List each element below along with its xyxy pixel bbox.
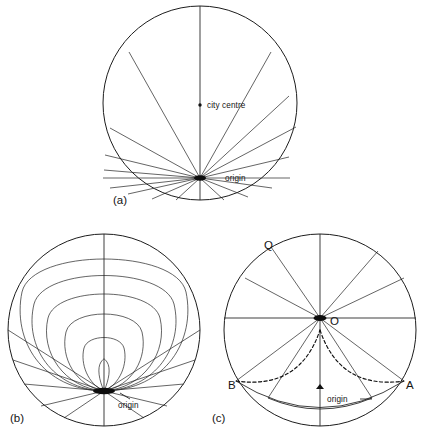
- panel-c-spoke-to-A: [320, 318, 404, 381]
- city-centre-marker-icon: [198, 103, 201, 106]
- panel-c-caption: (c): [212, 412, 226, 424]
- panel-c-spoke: [245, 278, 320, 318]
- panel-c: Q O B A origin (c): [212, 234, 416, 426]
- panel-a-spoke: [104, 170, 200, 178]
- panel-b-spoke: [41, 391, 104, 406]
- panel-a-spoke: [105, 155, 200, 178]
- panel-a-spoke: [128, 178, 200, 194]
- panel-c-point-b-label: B: [228, 379, 236, 391]
- panel-c-point-a-label: A: [406, 379, 414, 391]
- panel-b-spoke: [8, 330, 104, 391]
- panel-a-caption: (a): [113, 194, 127, 206]
- panel-c-spoke: [320, 278, 404, 318]
- panel-b: origin (b): [8, 234, 200, 426]
- panel-c-spoke: [320, 251, 378, 318]
- panel-b-origin-leader: [120, 393, 130, 399]
- panel-a-spoke: [110, 128, 200, 178]
- panel-c-origin-label: origin: [327, 395, 348, 404]
- panel-b-origin-hub-icon: [93, 388, 115, 394]
- panel-b-spoke: [64, 391, 104, 418]
- panel-c-spoke-to-B: [236, 318, 320, 381]
- figure-three-circular-city-diagrams: city centre origin (a): [0, 0, 432, 437]
- panel-a-spoke: [200, 178, 224, 200]
- panel-a-city-centre-label: city centre: [207, 101, 246, 110]
- panel-c-spoke: [320, 318, 372, 398]
- panel-c-origin-marker-icon: [316, 384, 324, 389]
- panel-c-spoke: [268, 318, 320, 398]
- panel-a-spoke: [176, 178, 200, 200]
- panel-c-point-o-label: O: [330, 315, 339, 327]
- panel-a-spoke: [152, 178, 200, 199]
- panel-b-caption: (b): [10, 412, 24, 424]
- panel-a-spoke: [110, 178, 200, 188]
- panel-c-spoke: [271, 247, 320, 318]
- panel-b-spoke: [104, 330, 200, 391]
- panel-c-origin-hub-icon: [314, 315, 327, 321]
- panel-a-origin-hub-icon: [194, 175, 206, 181]
- panel-a: city centre origin (a): [103, 6, 297, 206]
- panel-b-origin-label: origin: [118, 401, 139, 410]
- panel-c-point-q-label: Q: [264, 239, 273, 251]
- panel-a-spoke: [129, 52, 200, 178]
- panel-a-origin-label: origin: [225, 174, 246, 183]
